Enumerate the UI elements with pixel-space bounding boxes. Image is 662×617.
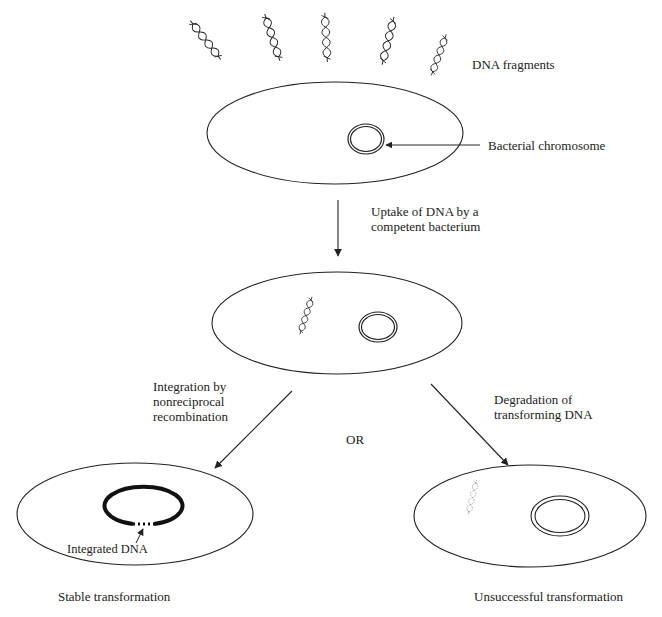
integrated-dna-label: Integrated DNA	[67, 542, 148, 557]
degraded-dna-icon	[465, 479, 479, 515]
unsuccessful-transformation-label: Unsuccessful transformation	[474, 589, 623, 604]
bacterial-chromosome-icon	[359, 312, 397, 342]
dna-fragment-icon	[261, 13, 284, 62]
bacterial-chromosome-label: Bacterial chromosome	[488, 138, 605, 153]
bacterium-cell-unsuccessful	[414, 465, 646, 567]
dna-fragment-icon	[378, 16, 397, 66]
stable-transformation-label: Stable transformation	[58, 589, 170, 604]
degradation-label: Degradation of transforming DNA	[494, 392, 593, 422]
dna-fragment-icon	[428, 33, 449, 76]
bacterium-cell-before-uptake	[207, 82, 463, 184]
dna-fragment-icon	[321, 13, 331, 63]
integration-label: Integration by nonreciprocal recombinati…	[153, 379, 228, 424]
bacterial-chromosome-icon	[348, 124, 384, 154]
dna-fragments-label: DNA fragments	[472, 57, 555, 72]
dna-fragment-icon	[187, 18, 223, 62]
integrated-dna-pointer-arrow	[136, 529, 143, 543]
bacterial-chromosome-icon	[531, 496, 589, 536]
taken-up-dna-icon	[297, 296, 315, 335]
bacterium-cell-after-uptake	[212, 272, 462, 374]
or-label: OR	[346, 432, 364, 447]
uptake-label: Uptake of DNA by a competent bacterium	[371, 204, 480, 234]
recombinant-chromosome-icon	[105, 487, 183, 524]
transformation-diagram	[0, 0, 662, 617]
